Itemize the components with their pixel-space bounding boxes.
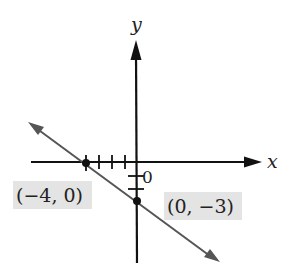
origin-label: 0 [142,167,153,187]
point-a-marker [82,159,90,167]
y-axis-arrow-icon [131,40,142,60]
x-axis-label: x [267,150,278,172]
line-arrow-right-icon [204,249,220,262]
y-axis-label: y [130,13,142,35]
coordinate-graph: y x 0 (−4, 0) (0, −3) [0,0,291,279]
point-b-label: (0, −3) [167,195,234,217]
point-a-label: (−4, 0) [16,184,83,206]
point-b-marker [133,197,141,205]
x-axis [31,157,262,168]
x-axis-arrow-icon [244,157,262,168]
y-axis [131,40,142,263]
